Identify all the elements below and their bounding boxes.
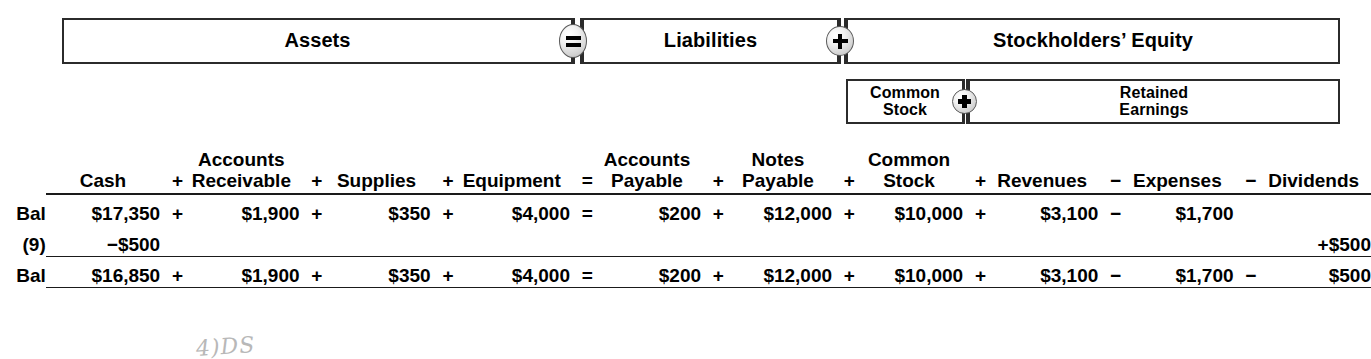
- header-accounts-payable: Accounts Payable: [593, 150, 701, 194]
- header-accounts-receivable: Accounts Receivable: [183, 150, 300, 194]
- cell-cash: −$500: [46, 225, 160, 256]
- cell-op: −: [1234, 257, 1257, 288]
- cell-cash: $17,350: [46, 195, 160, 225]
- header-equipment-bottom: Equipment: [453, 171, 570, 192]
- header-cash: Cash: [46, 150, 160, 194]
- cell-op: +: [701, 257, 724, 288]
- cell-accounts-payable: [593, 225, 701, 256]
- table-row: Bal $16,850 + $1,900 + $350 + $4,000 = $…: [0, 257, 1371, 288]
- cell-op: −: [1098, 195, 1121, 225]
- cell-op: [832, 225, 855, 256]
- cell-equipment: $4,000: [453, 195, 570, 225]
- assets-label: Assets: [284, 30, 350, 51]
- header-expenses: Expenses: [1121, 150, 1233, 194]
- assets-box: Assets: [62, 18, 573, 64]
- header-notes-payable: Notes Payable: [724, 150, 832, 194]
- common-stock-label: Common Stock: [870, 85, 940, 119]
- header-ar-top: Accounts: [183, 150, 300, 171]
- table-row: Bal $17,350 + $1,900 + $350 + $4,000 = $…: [0, 195, 1371, 225]
- cell-op: [431, 225, 454, 256]
- cell-op: +: [701, 195, 724, 225]
- cell-op: =: [570, 257, 593, 288]
- cell-op: [1098, 225, 1121, 256]
- cell-accounts-receivable: $1,900: [183, 195, 300, 225]
- header-common-stock: Common Stock: [855, 150, 963, 194]
- cell-dividends: $500: [1256, 257, 1371, 288]
- header-op-7: +: [963, 150, 986, 194]
- stockholders-equity-box: Stockholders’ Equity: [846, 18, 1340, 64]
- header-op-9: −: [1234, 150, 1257, 194]
- header-np-top: Notes: [724, 150, 832, 171]
- cell-expenses: $1,700: [1121, 257, 1233, 288]
- cell-supplies: $350: [322, 257, 430, 288]
- cell-expenses: [1121, 225, 1233, 256]
- header-supplies: Supplies: [322, 150, 430, 194]
- header-exp-bottom: Expenses: [1121, 171, 1233, 192]
- liabilities-label: Liabilities: [664, 30, 757, 51]
- cell-supplies: [322, 225, 430, 256]
- cell-cash: $16,850: [46, 257, 160, 288]
- cell-dividends: +$500: [1256, 225, 1371, 256]
- header-op-5: +: [701, 150, 724, 194]
- cell-op: +: [160, 257, 183, 288]
- header-op-2: +: [300, 150, 323, 194]
- cell-expenses: $1,700: [1121, 195, 1233, 225]
- common-stock-box: Common Stock: [846, 79, 964, 124]
- rule-line: [46, 287, 1371, 288]
- cell-equipment: [453, 225, 570, 256]
- cell-common-stock: [855, 225, 963, 256]
- cell-supplies: $350: [322, 195, 430, 225]
- header-cash-bottom: Cash: [46, 171, 160, 192]
- cell-notes-payable: $12,000: [724, 195, 832, 225]
- header-rev-bottom: Revenues: [986, 171, 1098, 192]
- stockholders-equity-label: Stockholders’ Equity: [993, 30, 1193, 51]
- cell-op: +: [963, 257, 986, 288]
- cell-op: [963, 225, 986, 256]
- cell-op: [160, 225, 183, 256]
- cell-op: +: [431, 195, 454, 225]
- cell-revenues: [986, 225, 1098, 256]
- plus-glyph: [958, 95, 971, 108]
- header-supplies-bottom: Supplies: [322, 171, 430, 192]
- header-ar-bottom: Receivable: [183, 171, 300, 192]
- cell-op: +: [1318, 234, 1329, 255]
- cell-value: $500: [1329, 234, 1371, 255]
- cell-op: [1234, 225, 1257, 256]
- cell-accounts-payable: $200: [593, 195, 701, 225]
- cell-op: +: [963, 195, 986, 225]
- header-op-6: +: [832, 150, 855, 194]
- plus-icon-stockholders-equity: [952, 89, 977, 114]
- cell-value: $500: [118, 234, 160, 255]
- plus-glyph: [833, 34, 848, 49]
- cell-op: +: [300, 257, 323, 288]
- cell-revenues: $3,100: [986, 195, 1098, 225]
- cell-op: +: [431, 257, 454, 288]
- header-op-8: −: [1098, 150, 1121, 194]
- header-ap-top: Accounts: [593, 150, 701, 171]
- header-div-bottom: Dividends: [1256, 171, 1371, 192]
- cell-common-stock: $10,000: [855, 257, 963, 288]
- cell-op: [701, 225, 724, 256]
- cell-op: +: [832, 195, 855, 225]
- header-cs-top: Common: [855, 150, 963, 171]
- cell-op: [300, 225, 323, 256]
- cell-op: [570, 225, 593, 256]
- header-dividends: Dividends: [1256, 150, 1371, 194]
- table-row: (9) −$500 +$500: [0, 225, 1371, 256]
- row-label: (9): [0, 225, 46, 256]
- plus-icon-equity: [826, 26, 854, 56]
- liabilities-box: Liabilities: [582, 18, 839, 64]
- cell-notes-payable: $12,000: [724, 257, 832, 288]
- cell-op: =: [570, 195, 593, 225]
- cell-dividends: [1256, 195, 1371, 225]
- header-np-bottom: Payable: [724, 171, 832, 192]
- cell-accounts-receivable: $1,900: [183, 257, 300, 288]
- cell-op: −: [107, 234, 118, 255]
- retained-earnings-box: Retained Earnings: [968, 79, 1340, 124]
- header-op-3: +: [431, 150, 454, 194]
- transaction-ledger-table: Cash + Accounts Receivable + Supplies + …: [0, 150, 1371, 288]
- row-label: Bal: [0, 195, 46, 225]
- cell-accounts-payable: $200: [593, 257, 701, 288]
- header-revenues: Revenues: [986, 150, 1098, 194]
- retained-earnings-label: Retained Earnings: [1119, 85, 1188, 119]
